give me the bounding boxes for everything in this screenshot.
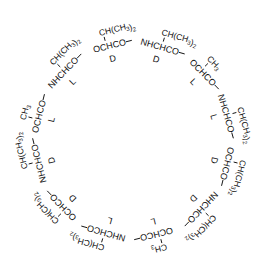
stereo-label: L [208, 113, 219, 121]
residue-unit: OCHCOCH3L [130, 213, 178, 259]
linker-bond [179, 52, 185, 54]
stereo-label: L [150, 216, 157, 227]
backbone-label: OCHCO [30, 99, 48, 134]
side-chain-bond [57, 64, 60, 67]
side-chain-bond [104, 37, 105, 41]
linker-bond [126, 40, 132, 41]
linker-bond [81, 226, 87, 228]
side-chain-bond [163, 38, 164, 42]
stereo-label: D [46, 156, 57, 165]
stereo-label: L [46, 116, 57, 123]
side-chain-bond [28, 117, 32, 118]
linker-bond [77, 54, 81, 58]
residue-unit: OCHCOCH(CH3)2D [88, 19, 143, 67]
side-chain-bond [29, 163, 33, 164]
backbone-label: OCHCO [139, 225, 174, 243]
side-chain-label: CH3 [18, 103, 33, 121]
side-chain-label: CH3 [150, 241, 168, 256]
side-chain-bond [233, 112, 237, 113]
side-chain-bond [206, 213, 209, 216]
residue-unit: OCHCOCH(CH3)2D [202, 143, 250, 198]
side-chain-label: CH(CH3)2 [11, 131, 33, 171]
stereo-label: D [209, 156, 220, 165]
side-chain-bond [58, 214, 61, 217]
backbone-label: OCHCO [92, 37, 127, 55]
side-chain-bond [161, 239, 162, 243]
stereo-label: L [106, 215, 114, 226]
side-chain-bond [234, 162, 238, 163]
valinomycin-ring-diagram: OCHCOCH(CH3)2DNHCHCOCH(CH3)2DOCHCOCH3LNH… [0, 0, 265, 266]
linker-bond [222, 180, 223, 186]
stereo-label: L [188, 76, 199, 87]
stereo-label: L [67, 76, 78, 87]
linker-bond [134, 238, 140, 239]
residue-unit: NHCHCOCH(CH3)2L [203, 89, 255, 153]
residue-unit: NHCHCOCH(CH3)2D [165, 181, 231, 247]
backbone-label: OCHCO [218, 146, 236, 181]
linker-bond [43, 94, 44, 100]
stereo-label: D [66, 192, 78, 204]
stereo-label: D [152, 54, 161, 66]
linker-bond [232, 133, 234, 139]
stereo-label: D [108, 53, 117, 64]
side-chain-label: CH(CH3)2 [98, 19, 138, 41]
linker-bond [185, 222, 189, 226]
linker-bond [215, 85, 219, 89]
residue-unit: OCHCOCH(CH3)2D [28, 173, 88, 233]
residue-unit: OCHCOCH3L [15, 89, 61, 137]
side-chain-bond [102, 238, 103, 242]
linker-bond [33, 138, 34, 144]
ring: OCHCOCH(CH3)2DNHCHCOCH(CH3)2DOCHCOCH3LNH… [11, 19, 255, 259]
residue-unit: NHCHCOCH(CH3)2L [35, 33, 101, 99]
stereo-label: D [187, 193, 199, 205]
side-chain-bond [205, 63, 208, 66]
linker-bond [47, 191, 51, 195]
